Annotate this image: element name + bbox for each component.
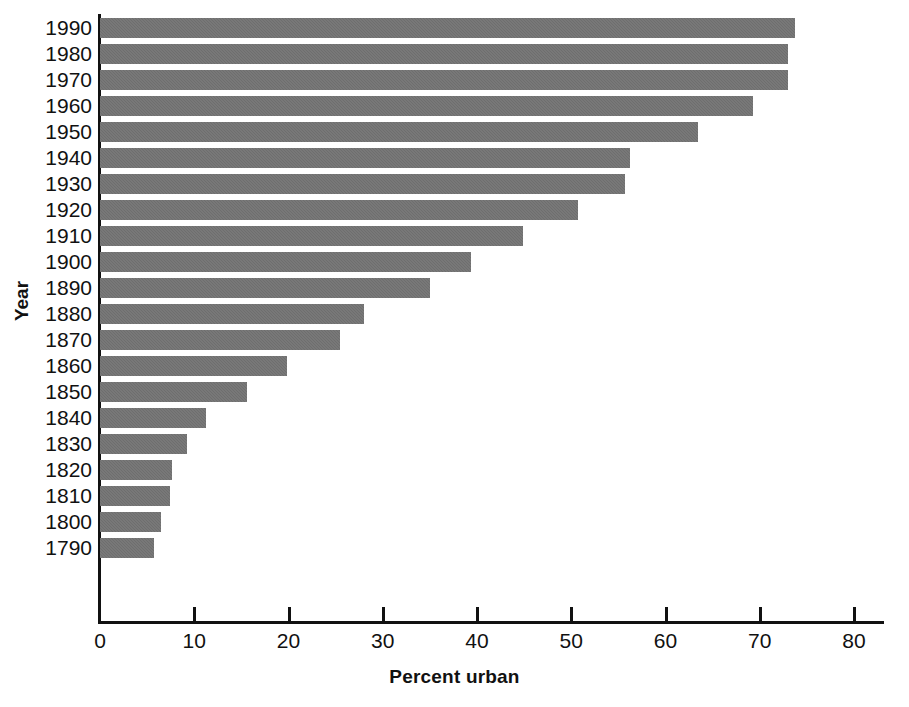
bar	[100, 148, 630, 168]
bar	[100, 304, 364, 324]
bar-row: 1920	[0, 198, 909, 224]
y-axis-tick-label: 1800	[0, 510, 92, 536]
bar-row: 1850	[0, 380, 909, 406]
bar	[100, 122, 698, 142]
x-axis-title: Percent urban	[0, 666, 909, 688]
bar	[100, 512, 161, 532]
y-axis-tick-label: 1790	[0, 536, 92, 562]
bar-row: 1980	[0, 42, 909, 68]
y-axis-tick-label: 1990	[0, 16, 92, 42]
x-axis-tick-label: 70	[730, 629, 790, 653]
x-axis-tick-label: 80	[824, 629, 884, 653]
y-axis-tick-label: 1840	[0, 406, 92, 432]
x-axis-tick-label: 10	[164, 629, 224, 653]
bar	[100, 96, 753, 116]
bar	[100, 538, 154, 558]
x-axis-tick	[193, 607, 196, 622]
bar	[100, 460, 172, 480]
bar-row: 1890	[0, 276, 909, 302]
y-axis-tick-label: 1820	[0, 458, 92, 484]
bar	[100, 174, 625, 194]
bar	[100, 226, 523, 246]
y-axis-tick-label: 1980	[0, 42, 92, 68]
bar	[100, 200, 578, 220]
x-axis-tick	[476, 607, 479, 622]
bar	[100, 70, 788, 90]
x-axis-tick	[665, 607, 668, 622]
bar	[100, 434, 187, 454]
y-axis-tick-label: 1830	[0, 432, 92, 458]
bar	[100, 382, 247, 402]
x-axis-tick-label: 60	[636, 629, 696, 653]
x-axis-tick-label: 30	[353, 629, 413, 653]
bar-row: 1800	[0, 510, 909, 536]
y-axis-tick-label: 1920	[0, 198, 92, 224]
x-axis-tick	[853, 607, 856, 622]
bar	[100, 278, 430, 298]
bar-row: 1880	[0, 302, 909, 328]
bar-row: 1790	[0, 536, 909, 562]
x-axis-tick	[759, 607, 762, 622]
bar	[100, 44, 788, 64]
bars-layer: 1990198019701960195019401930192019101900…	[0, 0, 909, 707]
y-axis-tick-label: 1970	[0, 68, 92, 94]
bar-row: 1970	[0, 68, 909, 94]
x-axis-tick-label: 40	[447, 629, 507, 653]
bar-row: 1870	[0, 328, 909, 354]
bar	[100, 18, 795, 38]
bar	[100, 330, 340, 350]
y-axis-tick-label: 1910	[0, 224, 92, 250]
x-axis-tick	[570, 607, 573, 622]
bar-row: 1990	[0, 16, 909, 42]
x-axis-tick	[288, 607, 291, 622]
bar-row: 1950	[0, 120, 909, 146]
y-axis-title: Year	[11, 261, 33, 341]
bar	[100, 356, 287, 376]
y-axis-tick-label: 1860	[0, 354, 92, 380]
bar	[100, 408, 206, 428]
bar-row: 1900	[0, 250, 909, 276]
y-axis-tick-label: 1950	[0, 120, 92, 146]
x-axis-tick-label: 0	[70, 629, 130, 653]
bar	[100, 486, 170, 506]
bar-row: 1860	[0, 354, 909, 380]
bar-chart: 1990198019701960195019401930192019101900…	[0, 0, 909, 707]
y-axis-tick-label: 1940	[0, 146, 92, 172]
bar-row: 1830	[0, 432, 909, 458]
y-axis-tick-label: 1960	[0, 94, 92, 120]
bar-row: 1820	[0, 458, 909, 484]
bar-row: 1810	[0, 484, 909, 510]
bar-row: 1910	[0, 224, 909, 250]
y-axis-tick-label: 1810	[0, 484, 92, 510]
y-axis-tick-label: 1930	[0, 172, 92, 198]
x-axis-tick-label: 20	[259, 629, 319, 653]
bar-row: 1960	[0, 94, 909, 120]
y-axis-tick-label: 1850	[0, 380, 92, 406]
bar-row: 1840	[0, 406, 909, 432]
bar-row: 1930	[0, 172, 909, 198]
x-axis-tick-label: 50	[541, 629, 601, 653]
x-axis-tick	[382, 607, 385, 622]
bar-row: 1940	[0, 146, 909, 172]
bar	[100, 252, 471, 272]
